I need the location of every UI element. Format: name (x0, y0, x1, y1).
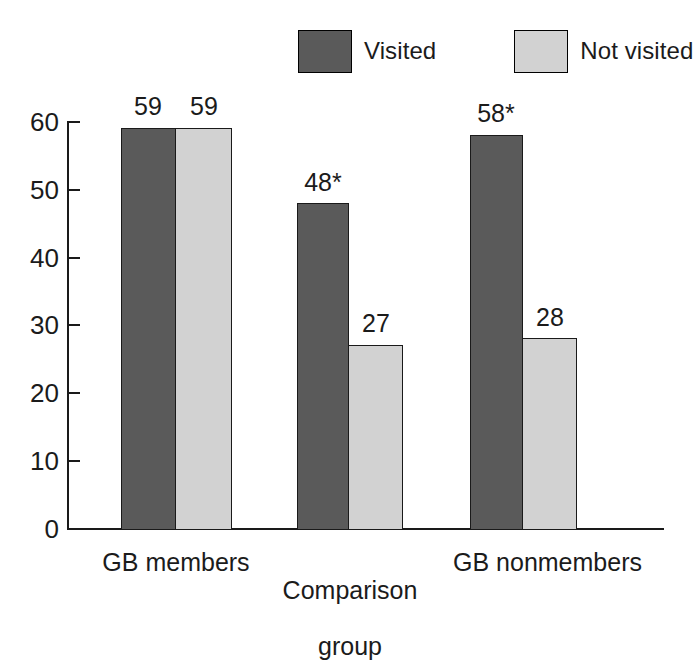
bar-comparison-group-not-visited (348, 345, 403, 530)
y-tick-label-0: 0 (3, 516, 59, 542)
y-tick-label-60: 60 (3, 109, 59, 135)
y-tick-label-50: 50 (3, 177, 59, 203)
y-tick-50 (67, 189, 80, 191)
bar-gb-members-not-visited (175, 128, 232, 530)
bar-value-comparison-group-visited: 48* (294, 170, 352, 195)
bar-comparison-group-visited (297, 203, 349, 530)
y-tick-10 (67, 460, 80, 462)
bar-gb-nonmembers-visited (470, 135, 523, 530)
bar-value-gb-nonmembers-visited: 58* (467, 101, 525, 126)
category-label-gb-nonmembers: GB nonmembers (435, 548, 660, 576)
bar-gb-nonmembers-not-visited (522, 338, 577, 530)
category-label-comparison-group-line2: group (260, 632, 440, 660)
category-label-gb-members: GB members (81, 548, 271, 576)
y-tick-40 (67, 257, 80, 259)
bar-value-comparison-group-not-visited: 27 (347, 311, 405, 336)
bar-value-gb-nonmembers-not-visited: 28 (521, 305, 579, 330)
bar-value-gb-members-visited: 59 (119, 94, 177, 119)
y-tick-label-40: 40 (3, 245, 59, 271)
y-tick-label-30: 30 (3, 312, 59, 338)
y-tick-30 (67, 324, 80, 326)
y-tick-60 (67, 121, 80, 123)
bar-value-gb-members-not-visited: 59 (175, 94, 233, 119)
bar-gb-members-visited (121, 128, 176, 530)
y-tick-label-10: 10 (3, 448, 59, 474)
scan-artifact-text (30, 598, 330, 609)
y-tick-label-20: 20 (3, 380, 59, 406)
y-tick-20 (67, 392, 80, 394)
